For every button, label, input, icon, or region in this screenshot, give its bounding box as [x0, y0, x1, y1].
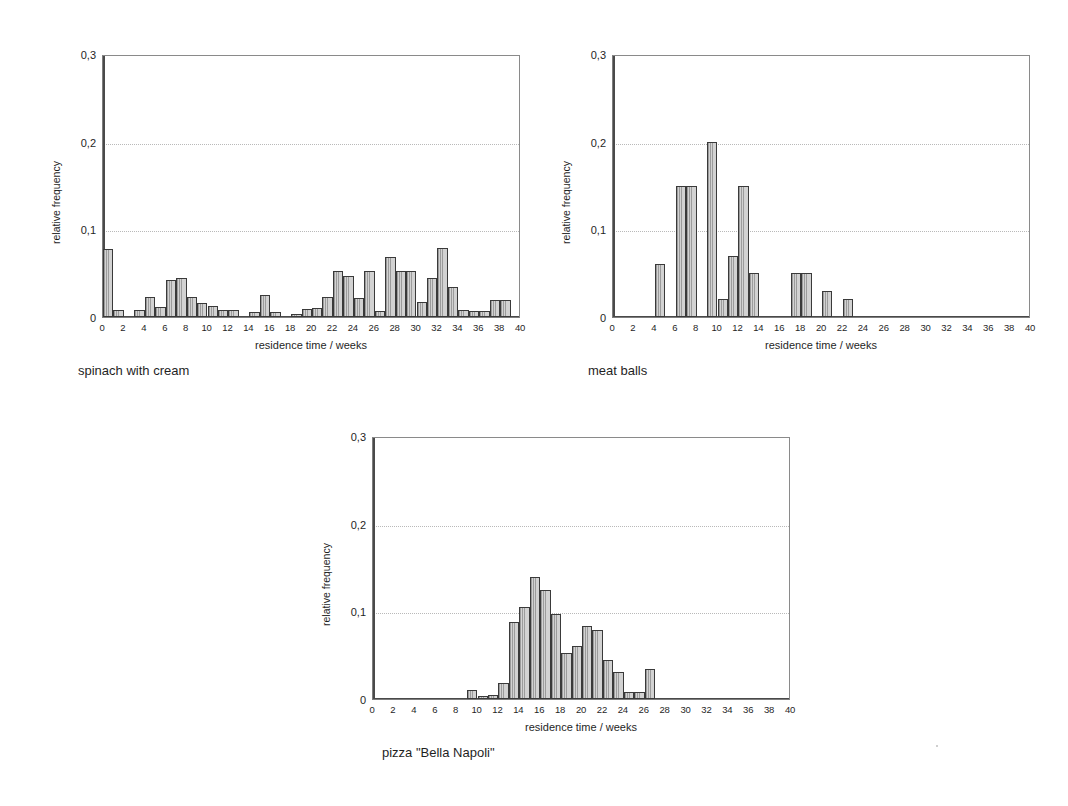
- bar: [228, 310, 238, 317]
- x-tick-label: 22: [327, 322, 337, 333]
- bar: [519, 607, 529, 699]
- plot-area-pizza: [372, 437, 790, 700]
- y-tick-label: 0,3: [578, 49, 606, 61]
- x-tick-label: 12: [732, 322, 742, 333]
- bar: [417, 302, 427, 317]
- x-tick-label: 4: [411, 704, 416, 715]
- bar: [613, 672, 623, 699]
- x-tick-label: 6: [162, 322, 167, 333]
- bar: [582, 626, 592, 699]
- x-tick-label: 30: [410, 322, 420, 333]
- x-tick-label: 28: [900, 322, 910, 333]
- bar: [333, 271, 343, 317]
- x-tick-label: 0: [99, 322, 104, 333]
- x-tick-label: 20: [306, 322, 316, 333]
- bar-series-pizza: [373, 438, 789, 699]
- x-tick-label: 6: [672, 322, 677, 333]
- x-tick-label: 26: [639, 704, 649, 715]
- bar: [291, 314, 301, 317]
- bar: [406, 271, 416, 317]
- chart-caption-meatballs: meat balls: [588, 363, 647, 378]
- bar: [479, 311, 489, 317]
- x-tick-label: 22: [597, 704, 607, 715]
- x-tick-label: 10: [711, 322, 721, 333]
- bar: [655, 264, 665, 317]
- x-tick-label: 18: [285, 322, 295, 333]
- x-tick-label: 8: [453, 704, 458, 715]
- x-tick-label: 26: [879, 322, 889, 333]
- x-tick-label: 40: [785, 704, 795, 715]
- bar: [603, 660, 613, 699]
- y-tick-label: 0,3: [338, 431, 366, 443]
- x-tick-label: 8: [183, 322, 188, 333]
- x-tick-label: 38: [1004, 322, 1014, 333]
- bar: [801, 273, 811, 317]
- x-tick-label: 26: [369, 322, 379, 333]
- bar: [561, 653, 571, 699]
- y-tick-label: 0,1: [578, 224, 606, 236]
- x-tick-label: 20: [816, 322, 826, 333]
- bar: [155, 307, 165, 317]
- bar: [707, 142, 717, 317]
- y-tick-label: 0,2: [68, 137, 96, 149]
- y-axis-title: relative frequency: [320, 543, 332, 626]
- x-tick-label: 38: [494, 322, 504, 333]
- x-tick-label: 0: [369, 704, 374, 715]
- bar: [375, 311, 385, 317]
- x-tick-label: 4: [651, 322, 656, 333]
- bar: [427, 278, 437, 317]
- bar: [822, 291, 832, 317]
- bar: [113, 310, 123, 317]
- bar: [145, 297, 155, 317]
- y-axis-title: relative frequency: [50, 161, 62, 244]
- bar: [843, 299, 853, 317]
- x-tick-label: 36: [743, 704, 753, 715]
- y-tick-label: 0: [578, 312, 606, 324]
- x-tick-label: 14: [753, 322, 763, 333]
- x-tick-label: 24: [858, 322, 868, 333]
- bar: [343, 276, 353, 317]
- y-tick-label: 0,1: [68, 224, 96, 236]
- bar: [749, 273, 759, 317]
- bar: [302, 309, 312, 317]
- y-axis-title: relative frequency: [560, 161, 572, 244]
- x-tick-label: 18: [555, 704, 565, 715]
- bar: [551, 614, 561, 699]
- bar: [540, 590, 550, 699]
- bar: [187, 297, 197, 317]
- bar: [166, 280, 176, 317]
- bar: [572, 646, 582, 699]
- x-tick-label: 0: [609, 322, 614, 333]
- chart-caption-pizza: pizza "Bella Napoli": [382, 745, 495, 760]
- bar: [354, 298, 364, 317]
- x-tick-label: 28: [390, 322, 400, 333]
- x-tick-label: 38: [764, 704, 774, 715]
- bar: [478, 696, 488, 700]
- bar: [530, 577, 540, 699]
- bar: [396, 271, 406, 317]
- chart-caption-spinach: spinach with cream: [78, 363, 189, 378]
- x-tick-label: 28: [660, 704, 670, 715]
- x-tick-label: 16: [774, 322, 784, 333]
- bar: [437, 248, 447, 317]
- bar: [676, 186, 686, 318]
- x-tick-label: 16: [534, 704, 544, 715]
- x-axis-title: residence time / weeks: [765, 339, 877, 351]
- bar: [270, 312, 280, 317]
- bar: [197, 303, 207, 317]
- bar: [385, 257, 395, 317]
- x-tick-label: 32: [701, 704, 711, 715]
- bar-series-meatballs: [613, 56, 1029, 317]
- plot-area-spinach: [102, 55, 520, 318]
- bar: [364, 271, 374, 317]
- x-tick-label: 34: [452, 322, 462, 333]
- x-tick-label: 30: [680, 704, 690, 715]
- x-tick-label: 32: [941, 322, 951, 333]
- bar: [634, 692, 644, 699]
- x-tick-label: 10: [201, 322, 211, 333]
- x-tick-label: 40: [515, 322, 525, 333]
- x-tick-label: 2: [390, 704, 395, 715]
- x-tick-label: 36: [473, 322, 483, 333]
- bar: [500, 300, 510, 317]
- bar: [322, 297, 332, 317]
